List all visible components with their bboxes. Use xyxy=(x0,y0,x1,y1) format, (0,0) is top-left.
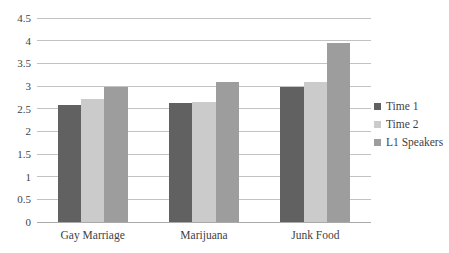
y-axis-tick-label: 0 xyxy=(0,215,31,229)
x-axis-category-label: Marijuana xyxy=(144,229,264,241)
gridline-4.5 xyxy=(37,18,371,19)
bar-chart: 00.511.522.533.544.5Gay MarriageMarijuan… xyxy=(0,0,449,253)
gridline-4 xyxy=(37,40,371,41)
legend-label-time-2: Time 2 xyxy=(386,118,419,130)
y-axis-tick-label: 2 xyxy=(0,124,31,138)
legend-swatch-l1-speakers xyxy=(374,139,381,146)
y-axis-tick-label: 3.5 xyxy=(0,56,31,70)
x-axis-category-label: Gay Marriage xyxy=(33,229,153,241)
x-axis-category-label: Junk Food xyxy=(255,229,375,241)
bar-time-2-gay-marriage xyxy=(81,99,104,222)
legend-swatch-time-1 xyxy=(374,103,381,110)
legend: Time 1Time 2L1 Speakers xyxy=(374,99,443,149)
bar-l1-speakers-gay-marriage xyxy=(104,87,127,222)
y-axis-tick-label: 2.5 xyxy=(0,102,31,116)
y-axis-tick-label: 4.5 xyxy=(0,11,31,25)
legend-swatch-time-2 xyxy=(374,121,381,128)
y-axis-tick-label: 3 xyxy=(0,79,31,93)
y-axis-tick-label: 0.5 xyxy=(0,192,31,206)
bar-l1-speakers-junk-food xyxy=(327,43,350,222)
bar-time-2-marijuana xyxy=(192,102,215,222)
y-axis-tick-label: 1.5 xyxy=(0,147,31,161)
legend-item-l1-speakers: L1 Speakers xyxy=(374,135,443,149)
gridline-3.5 xyxy=(37,63,371,64)
bar-time-1-gay-marriage xyxy=(58,105,81,222)
legend-item-time-1: Time 1 xyxy=(374,99,443,113)
bar-time-1-junk-food xyxy=(280,87,303,222)
bar-l1-speakers-marijuana xyxy=(216,82,239,222)
y-axis-tick-label: 1 xyxy=(0,170,31,184)
y-axis-tick-label: 4 xyxy=(0,34,31,48)
bar-time-2-junk-food xyxy=(304,82,327,222)
legend-item-time-2: Time 2 xyxy=(374,117,443,131)
bar-time-1-marijuana xyxy=(169,103,192,222)
legend-label-l1-speakers: L1 Speakers xyxy=(386,136,443,148)
legend-label-time-1: Time 1 xyxy=(386,100,419,112)
